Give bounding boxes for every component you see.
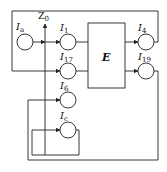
svg-text:I19: I19 xyxy=(137,51,151,64)
svg-text:E: E xyxy=(101,51,111,64)
svg-text:I1: I1 xyxy=(59,22,68,35)
node-i6: I6 xyxy=(59,80,76,108)
node-i4: I4 xyxy=(137,22,154,50)
node-i19: I19 xyxy=(137,51,154,79)
z0-axis: Z0 xyxy=(38,10,49,155)
node-i17: I17 xyxy=(59,51,76,79)
top-feedback-loop xyxy=(12,11,158,71)
svg-text:Ic: Ic xyxy=(59,110,68,123)
svg-text:I6: I6 xyxy=(59,80,69,93)
block-e: E xyxy=(88,23,125,88)
svg-text:I17: I17 xyxy=(59,51,73,64)
block-diagram: Z0 Ia I1 I17 I6 Ic E xyxy=(0,0,167,172)
node-ic: Ic xyxy=(59,110,76,138)
node-ia: Ia xyxy=(15,21,33,50)
svg-text:Z0: Z0 xyxy=(38,10,49,23)
node-i1: I1 xyxy=(59,22,76,50)
svg-text:I4: I4 xyxy=(137,22,147,35)
svg-text:Ia: Ia xyxy=(15,21,24,34)
